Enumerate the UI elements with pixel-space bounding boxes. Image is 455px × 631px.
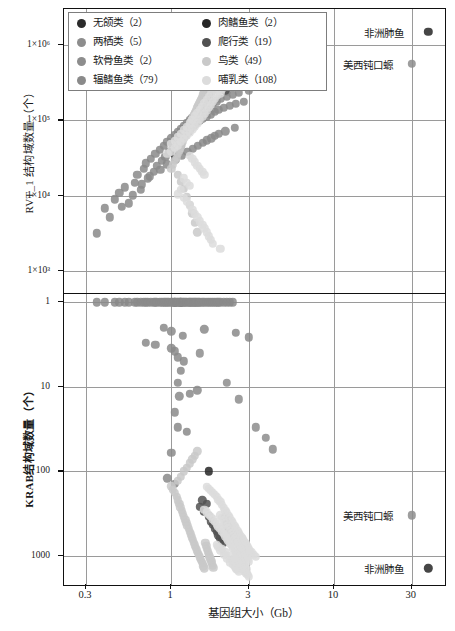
scatter-point	[261, 434, 269, 442]
scatter-point	[93, 229, 101, 237]
y-tick-label: 1	[45, 296, 58, 306]
scatter-point	[235, 395, 243, 403]
y-axis-label-krab: KRAB结构域数量（个）	[20, 371, 36, 521]
scatter-point	[193, 386, 201, 394]
scatter-point	[251, 553, 259, 561]
scatter-point	[128, 191, 136, 199]
y-tick-mark	[58, 119, 63, 120]
gridline-vertical	[334, 294, 335, 585]
gridline-vertical	[412, 294, 413, 585]
plot-area-krab: 美西钝口螈非洲肺鱼	[64, 294, 445, 585]
scatter-point	[229, 298, 237, 306]
scatter-point	[204, 467, 212, 475]
scatter-point	[175, 392, 183, 400]
x-tick-label: 30	[405, 589, 416, 600]
y-tick-label: 10	[41, 381, 59, 391]
scatter-point	[408, 60, 416, 68]
scatter-point	[106, 213, 114, 221]
scatter-point	[196, 349, 204, 357]
legend-label: 辐鳍鱼类（79）	[93, 75, 164, 86]
scatter-point	[200, 171, 208, 179]
annotation-label: 美西钝口螈	[343, 56, 393, 71]
y-tick-label: 1000	[31, 550, 58, 560]
legend-swatch-icon	[77, 38, 86, 47]
y-tick-mark	[58, 470, 63, 471]
scatter-point	[146, 172, 154, 180]
scatter-point	[200, 325, 208, 333]
scatter-point	[193, 447, 201, 455]
figure-root: 非洲肺鱼美西钝口螈 美西钝口螈非洲肺鱼 1×10³1×10⁴1×10⁵1×10⁶…	[0, 0, 455, 631]
y-tick-mark	[58, 44, 63, 45]
gridline-horizontal	[64, 120, 445, 121]
x-tick-label: 3	[245, 589, 250, 600]
scatter-point	[232, 329, 240, 337]
x-axis-label: 基因组大小（Gb）	[63, 604, 444, 620]
gridline-horizontal	[64, 271, 445, 272]
scatter-point	[245, 333, 253, 341]
scatter-point	[408, 511, 416, 519]
annotation-label: 非洲肺鱼	[364, 24, 404, 39]
legend-label: 肉鳍鱼类（2）	[218, 18, 283, 29]
gridline-horizontal	[64, 196, 445, 197]
scatter-point	[185, 182, 193, 190]
legend-swatch-icon	[77, 19, 86, 28]
gridline-horizontal	[64, 471, 445, 472]
scatter-point	[251, 423, 259, 431]
scatter-point	[100, 204, 108, 212]
scatter-point	[167, 327, 175, 335]
legend-swatch-icon	[202, 38, 211, 47]
panel-krab: 美西钝口螈非洲肺鱼	[63, 293, 446, 586]
legend-swatch-icon	[77, 57, 86, 66]
legend-label: 鸟类（49）	[218, 56, 269, 67]
legend-item[interactable]: 爬行类（19）	[202, 33, 327, 52]
legend-item[interactable]: 鸟类（49）	[202, 52, 327, 71]
y-tick-label: 1×10⁶	[27, 39, 58, 49]
legend-label: 无颌类（2）	[93, 18, 148, 29]
gridline-horizontal	[64, 387, 445, 388]
legend-item[interactable]: 两栖类（5）	[77, 33, 202, 52]
y-tick-mark	[58, 301, 63, 302]
scatter-point	[424, 28, 432, 36]
scatter-point	[230, 124, 238, 132]
x-tick-label: 0.3	[78, 589, 91, 600]
legend: 无颌类（2）肉鳍鱼类（2）两栖类（5）爬行类（19）软骨鱼类（2）鸟类（49）辐…	[68, 12, 327, 91]
legend-item[interactable]: 肉鳍鱼类（2）	[202, 14, 327, 33]
legend-label: 两栖类（5）	[93, 37, 148, 48]
legend-swatch-icon	[202, 76, 211, 85]
x-tick-label: 10	[328, 589, 339, 600]
annotation-label: 非洲肺鱼	[364, 561, 404, 576]
gridline-vertical	[86, 294, 87, 585]
scatter-point	[209, 564, 217, 572]
y-tick-mark	[58, 195, 63, 196]
scatter-point	[100, 298, 108, 306]
scatter-point	[133, 171, 141, 179]
scatter-point	[174, 423, 182, 431]
annotation-label: 美西钝口螈	[343, 508, 393, 523]
x-axis-ticks: 0.3131030	[63, 589, 444, 605]
y-tick-mark	[58, 555, 63, 556]
legend-label: 软骨鱼类（2）	[93, 56, 158, 67]
scatter-point	[142, 338, 150, 346]
scatter-point	[240, 97, 248, 105]
gridline-vertical	[171, 294, 172, 585]
scatter-point	[167, 448, 175, 456]
y-tick-label: 1×10³	[28, 265, 58, 275]
legend-item[interactable]: 哺乳类（108）	[202, 71, 327, 90]
y-tick-mark	[58, 386, 63, 387]
y-axis-label-rvt1: RVT_1 结构域数量（个）	[20, 75, 36, 225]
legend-swatch-icon	[202, 57, 211, 66]
y-tick-label: 100	[36, 465, 58, 475]
legend-item[interactable]: 无颌类（2）	[77, 14, 202, 33]
scatter-point	[268, 445, 276, 453]
scatter-point	[179, 332, 187, 340]
scatter-point	[221, 127, 229, 135]
legend-item[interactable]: 辐鳍鱼类（79）	[77, 71, 202, 90]
legend-label: 爬行类（19）	[218, 37, 279, 48]
y-tick-mark	[58, 270, 63, 271]
legend-swatch-icon	[77, 76, 86, 85]
legend-item[interactable]: 软骨鱼类（2）	[77, 52, 202, 71]
scatter-point	[138, 180, 146, 188]
x-tick-label: 1	[167, 589, 172, 600]
gridline-vertical	[412, 9, 413, 294]
scatter-point	[170, 408, 178, 416]
